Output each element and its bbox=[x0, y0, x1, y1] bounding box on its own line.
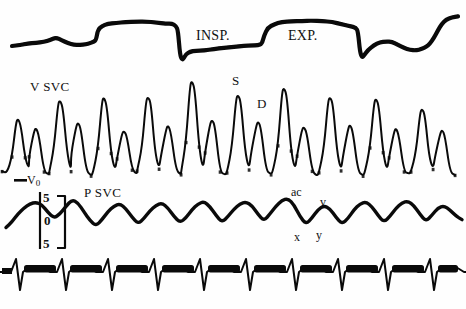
x-descent-label: x bbox=[294, 231, 300, 243]
zero-velocity-label: V0 bbox=[27, 174, 40, 188]
zero-velocity-subscript: 0 bbox=[36, 178, 41, 188]
calibration-upper-label: 5 bbox=[43, 191, 50, 204]
ecg-trace bbox=[0, 259, 466, 290]
inspiration-label: INSP. bbox=[196, 29, 230, 43]
svc-velocity-trace bbox=[1, 82, 457, 178]
respiration-trace bbox=[12, 16, 458, 60]
ac-wave-label: ac bbox=[291, 186, 302, 198]
calibration-zero-label: 0 bbox=[44, 214, 51, 227]
expiration-label: EXP. bbox=[288, 29, 318, 43]
svc-pressure-trace bbox=[6, 199, 462, 227]
pressure-channel-label: P SVC bbox=[84, 186, 121, 199]
velocity-channel-label: V SVC bbox=[30, 80, 70, 93]
physiological-recording-figure: INSP. EXP. V SVC S D V0 P SVC 5 0 5 ac v… bbox=[0, 0, 466, 309]
zero-velocity-letter: V bbox=[27, 173, 36, 187]
diastolic-peak-label: D bbox=[257, 97, 266, 110]
y-descent-label: y bbox=[316, 229, 322, 241]
waveform-canvas bbox=[0, 0, 466, 309]
calibration-lower-label: 5 bbox=[43, 237, 50, 250]
systolic-peak-label: S bbox=[232, 74, 239, 87]
v-wave-label: v bbox=[320, 196, 326, 208]
